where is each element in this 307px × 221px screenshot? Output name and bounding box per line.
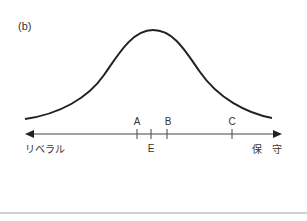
distribution-curve: [25, 30, 272, 119]
arrow-right-icon: [273, 130, 282, 138]
marker-e-label: E: [148, 143, 155, 154]
marker-c-label: C: [228, 116, 235, 127]
axis-right-label: 保 守: [252, 143, 282, 155]
panel-label: (b): [18, 20, 31, 32]
axis-left-label: リベラル: [25, 144, 65, 155]
bottom-divider: [0, 212, 307, 214]
distribution-figure: (b) A E B C リベラル 保 守: [0, 0, 307, 221]
arrow-left-icon: [25, 130, 34, 138]
marker-a-label: A: [134, 116, 141, 127]
marker-b-label: B: [165, 116, 172, 127]
